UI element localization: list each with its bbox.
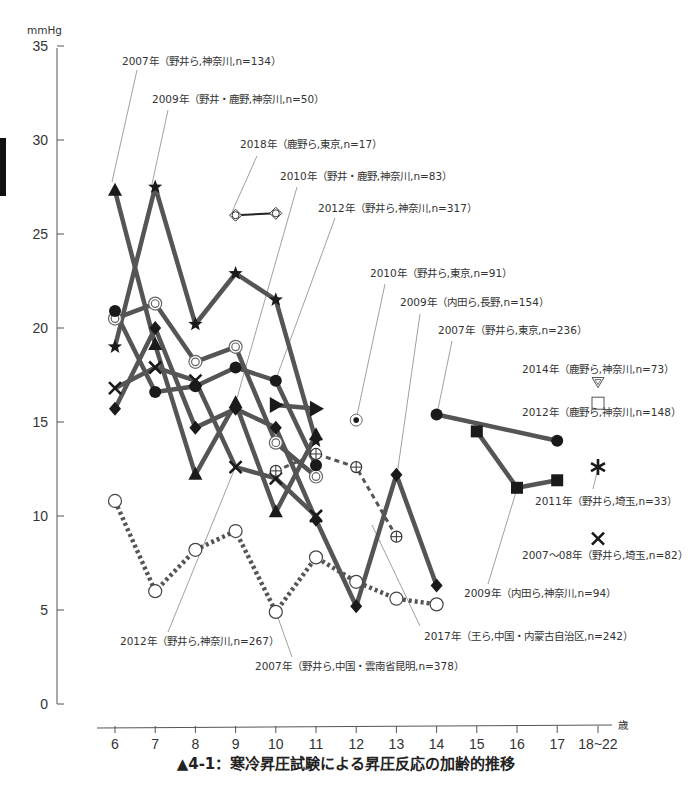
filled-diamond-marker-icon [390,468,402,482]
triangle-marker-icon [108,183,122,196]
right-triangle-marker-icon [310,401,324,417]
filled-circle-marker-icon [270,375,282,387]
series-annotation-label: 2007年（野井ら,中国・雲南省昆明,n=378） [255,660,464,672]
open-circle-marker-icon [390,592,403,605]
line-chart: 05101520253035mmHg6789101112131415161718… [0,0,692,750]
diamond-open-cross-marker-icon [230,209,242,221]
filled-square-marker-icon [551,474,563,486]
series-annotation-label: 2012年（野井ら,神奈川,n=267） [120,635,279,647]
series-annotation-label: 2009年（内田ら,神奈川,n=94） [464,587,616,599]
double-circle-marker-icon [229,340,242,353]
circle-plus-marker-icon [270,465,281,476]
filled-circle-marker-icon [431,408,443,420]
open-circle-marker-icon [229,525,242,538]
filled-circle-marker-icon [109,305,121,317]
open-circle-marker-icon [430,598,443,611]
filled-circle-marker-icon [310,459,322,471]
series-annotation-label: 2007～08年（野井ら,埼玉,n=82） [522,549,688,561]
double-circle-marker-icon [269,436,282,449]
x-axis-unit: 歳 [618,719,629,731]
series-annotation-label: 2012年（鹿野ら,神奈川,n=148） [522,406,681,418]
double-circle-marker-icon [149,297,162,310]
filled-circle-marker-icon [230,361,242,373]
open-circle-marker-icon [109,494,122,507]
series-annotation-label: 2012年（野井ら,神奈川,n=317） [318,202,477,214]
annotation-labels: 2007年（野井ら,神奈川,n=134）2009年（野井・鹿野,神奈川,n=50… [120,55,688,672]
double-circle-marker-icon [189,355,202,368]
double-circle-marker-icon [310,470,323,483]
leader-line [112,70,137,182]
filled-diamond-marker-icon [431,579,443,593]
y-tick-label: 35 [32,38,48,54]
right-triangle-marker-icon [270,397,284,413]
circle-plus-marker-icon [391,531,402,542]
series-line [115,501,437,612]
open-circle-marker-icon [269,605,282,618]
open-circle-marker-icon [350,575,363,588]
triangle-down-open-marker-icon [592,378,604,388]
x-marker-icon [592,533,604,545]
star-marker-icon [108,339,122,353]
leader-line [488,492,516,584]
circle-plus-marker-icon [351,462,362,473]
x-tick-label: 11 [309,736,324,750]
x-tick-label: 9 [232,736,240,750]
series-annotation-label: 2007年（野井ら,神奈川,n=134） [122,55,281,67]
series-annotation-label: 2009年（野井・鹿野,神奈川,n=50） [152,93,324,105]
circle-plus-marker-icon [311,448,322,459]
figure-caption: ▲4-1：寒冷昇圧試験による昇圧反応の加齢的推移 [0,752,692,773]
filled-circle-marker-icon [149,386,161,398]
asterisk-marker-icon [591,459,605,475]
x-tick-label: 15 [469,736,485,750]
dot-in-circle-marker-icon [350,414,362,426]
series-annotation-label: 2007年（野井ら,東京,n=236） [438,324,587,336]
x-tick-label: 10 [268,736,284,750]
series-lines [115,187,557,612]
open-circle-marker-icon [189,543,202,556]
y-tick-label: 5 [40,602,48,618]
leader-line [437,341,452,414]
y-tick-label: 15 [32,414,48,430]
x-tick-label: 14 [429,736,445,750]
leader-line [152,110,168,184]
x-tick-label: 13 [389,736,405,750]
leader-line [356,284,385,420]
y-tick-label: 20 [32,320,48,336]
filled-circle-marker-icon [551,435,563,447]
y-tick-label: 0 [40,696,48,712]
leader-line [276,218,335,379]
x-tick-label: 16 [509,736,525,750]
series-annotation-label: 2009年（内田ら,長野,n=154） [400,296,549,308]
series-annotation-label: 2017年（王ら,中国・内蒙古自治区,n=242） [424,630,633,642]
open-circle-marker-icon [149,585,162,598]
y-tick-label: 10 [32,508,48,524]
y-axis-unit: mmHg [27,24,62,36]
series-annotation-label: 2014年（鹿野ら,神奈川,n=73） [522,363,674,375]
series-annotation-label: 2010年（野井ら,東京,n=91） [370,267,512,279]
x-tick-label: 7 [151,736,159,750]
leader-line [397,314,420,475]
filled-square-marker-icon [511,482,523,494]
series-annotation-label: 2010年（野井・鹿野,神奈川,n=83） [280,170,452,182]
diamond-open-cross-marker-icon [270,207,282,219]
x-tick-label: 17 [549,736,565,750]
x-tick-label: 12 [348,736,364,750]
x-tick-label: 8 [192,736,200,750]
series-line [437,414,558,440]
x-tick-label: 18~22 [578,736,618,750]
series-annotation-label: 2018年（鹿野ら,東京,n=17） [240,138,382,150]
x-tick-label: 6 [111,736,119,750]
y-tick-label: 25 [32,226,48,242]
open-circle-marker-icon [310,551,323,564]
filled-square-marker-icon [471,425,483,437]
y-tick-label: 30 [32,132,48,148]
leader-line [232,156,257,212]
series-annotation-label: 2011年（野井ら,埼玉,n=33） [535,495,677,507]
